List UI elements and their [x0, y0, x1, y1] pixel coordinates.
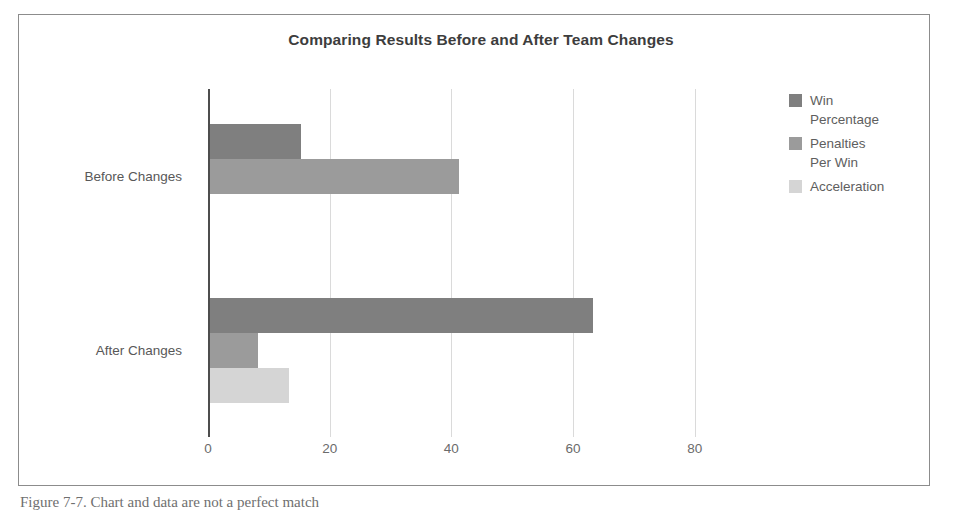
x-tick-label: 40 — [444, 441, 459, 456]
bar — [210, 298, 593, 333]
x-tick-label: 0 — [204, 441, 212, 456]
category-label: Before Changes — [84, 169, 182, 184]
plot-area: Before ChangesAfter Changes — [208, 89, 786, 437]
chart-title: Comparing Results Before and After Team … — [19, 31, 929, 49]
gridline-80 — [695, 89, 696, 437]
chart-legend: Win PercentagePenalties Per WinAccelerat… — [789, 91, 939, 201]
category-label: After Changes — [96, 343, 182, 358]
legend-swatch-icon — [789, 180, 802, 193]
legend-swatch-icon — [789, 137, 802, 150]
legend-swatch-icon — [789, 94, 802, 107]
gridline-20 — [330, 89, 331, 437]
bar — [210, 333, 259, 368]
legend-label: Win Percentage — [810, 91, 879, 129]
legend-item: Acceleration — [789, 177, 939, 196]
legend-label: Penalties Per Win — [810, 134, 866, 172]
bar — [210, 368, 289, 403]
x-tick-label: 20 — [322, 441, 337, 456]
bar — [210, 124, 301, 159]
figure-frame: Comparing Results Before and After Team … — [18, 14, 930, 486]
legend-label: Acceleration — [810, 177, 884, 196]
x-axis-tick-labels: 020406080 — [208, 441, 786, 467]
gridline-40 — [451, 89, 452, 437]
gridline-60 — [573, 89, 574, 437]
bar — [210, 159, 459, 194]
figure-caption: Figure 7-7. Chart and data are not a per… — [20, 494, 319, 510]
x-tick-label: 80 — [687, 441, 702, 456]
legend-item: Win Percentage — [789, 91, 939, 129]
x-tick-label: 60 — [566, 441, 581, 456]
legend-item: Penalties Per Win — [789, 134, 939, 172]
